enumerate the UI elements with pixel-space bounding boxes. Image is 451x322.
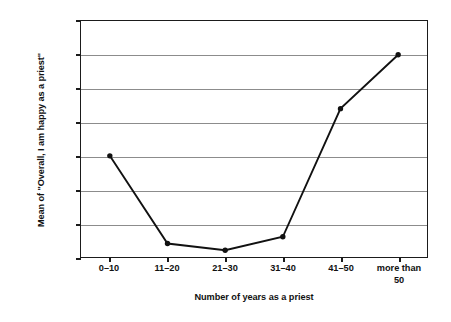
x-tick-mark — [167, 257, 168, 262]
data-series — [81, 21, 427, 257]
data-point-marker — [165, 241, 170, 246]
x-tick-mark — [225, 257, 226, 262]
x-tick-mark — [283, 257, 284, 262]
data-point-marker — [107, 153, 112, 158]
data-point-marker — [395, 52, 400, 57]
data-point-marker — [338, 106, 343, 111]
x-tick-mark — [341, 257, 342, 262]
data-point-marker — [280, 234, 285, 239]
plot-area — [80, 20, 428, 258]
data-point-marker — [222, 248, 227, 253]
x-axis-title: Number of years as a priest — [78, 292, 430, 302]
line-chart: Mean of "Overall, I am happy as a priest… — [0, 0, 451, 322]
series-line — [110, 55, 398, 251]
x-tick-label: more than 50 — [351, 263, 447, 286]
x-tick-mark — [399, 257, 400, 262]
y-tick-mark — [76, 258, 81, 259]
y-axis-title: Mean of "Overall, I am happy as a priest… — [36, 20, 46, 260]
x-tick-mark — [109, 257, 110, 262]
